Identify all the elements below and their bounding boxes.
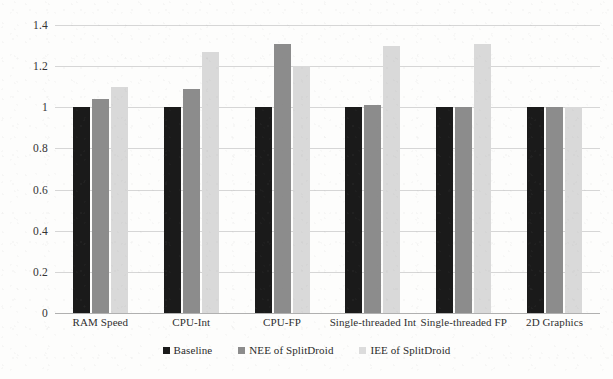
bar-group	[237, 25, 328, 313]
legend-label: NEE of SplitDroid	[249, 344, 333, 356]
y-axis-tick-label: 1.2	[33, 60, 48, 72]
axis-baseline	[55, 313, 600, 314]
y-axis-tick-label: 0.2	[33, 266, 48, 278]
y-axis-tick-label: 0.4	[33, 225, 48, 237]
chart-legend: BaselineNEE of SplitDroidIEE of SplitDro…	[0, 344, 613, 356]
bar	[183, 89, 200, 313]
bar	[293, 66, 310, 313]
x-axis-tick-label: 2D Graphics	[509, 316, 600, 336]
legend-item[interactable]: NEE of SplitDroid	[238, 344, 333, 356]
legend-swatch-icon	[359, 347, 366, 354]
bar	[255, 107, 272, 313]
x-axis: RAM SpeedCPU-IntCPU-FPSingle-threaded In…	[55, 316, 600, 336]
legend-item[interactable]: IEE of SplitDroid	[359, 344, 450, 356]
x-axis-tick-label: Single-threaded FP	[418, 316, 509, 336]
bar	[565, 107, 582, 313]
bar	[436, 107, 453, 313]
bar	[345, 107, 362, 313]
bar-group	[509, 25, 600, 313]
bar	[546, 107, 563, 313]
bar	[92, 99, 109, 313]
legend-label: IEE of SplitDroid	[370, 344, 450, 356]
x-axis-tick-label: CPU-Int	[146, 316, 237, 336]
bar	[383, 46, 400, 313]
x-axis-tick-label: Single-threaded Int	[327, 316, 418, 336]
bar	[111, 87, 128, 313]
x-axis-tick-label: CPU-FP	[237, 316, 328, 336]
bar	[527, 107, 544, 313]
bar-group	[55, 25, 146, 313]
y-axis-tick-label: 0.6	[33, 184, 48, 196]
y-axis-tick-label: 1.4	[33, 19, 48, 31]
plot-area	[55, 25, 600, 313]
legend-label: Baseline	[174, 344, 213, 356]
legend-item[interactable]: Baseline	[163, 344, 213, 356]
bar	[73, 107, 90, 313]
y-axis-tick-label: 1	[42, 101, 48, 113]
bar	[164, 107, 181, 313]
bar-group	[327, 25, 418, 313]
bar	[455, 107, 472, 313]
bar-groups	[55, 25, 600, 313]
y-axis-tick-label: 0.8	[33, 142, 48, 154]
bar	[202, 52, 219, 313]
y-axis-tick-label: 0	[42, 307, 48, 319]
x-axis-tick-label: RAM Speed	[55, 316, 146, 336]
legend-swatch-icon	[238, 347, 245, 354]
bar	[364, 105, 381, 313]
bar	[274, 44, 291, 313]
legend-swatch-icon	[163, 347, 170, 354]
bar-group	[418, 25, 509, 313]
bar-group	[146, 25, 237, 313]
bar	[474, 44, 491, 313]
y-axis: 00.20.40.60.811.21.4	[0, 25, 48, 313]
chart-figure: ‌ ‌ ‌ ‌ ‌ ‌ ‌ ‌ ‌ ‌ ‌ ‌ ‌ ‌ ‌ 00.20.40.6…	[0, 0, 613, 379]
